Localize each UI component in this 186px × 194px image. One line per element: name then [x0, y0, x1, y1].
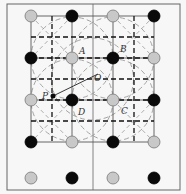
- label-A: A: [78, 46, 86, 56]
- dashed-grid-lines: [31, 16, 154, 142]
- black-atom: [148, 172, 160, 184]
- label-B: B: [119, 44, 127, 54]
- black-atom: [66, 94, 78, 106]
- black-atom: [25, 52, 37, 64]
- gray-atom: [107, 94, 119, 106]
- black-atom: [107, 136, 119, 148]
- point-P-dot: [51, 94, 56, 99]
- gray-atom: [107, 10, 119, 22]
- black-atom: [107, 52, 119, 64]
- black-atom: [66, 172, 78, 184]
- gray-atom: [25, 172, 37, 184]
- gray-atom: [148, 52, 160, 64]
- gray-atom: [66, 136, 78, 148]
- black-atom: [66, 10, 78, 22]
- gray-atom: [25, 10, 37, 22]
- black-atom: [148, 94, 160, 106]
- label-D: D: [77, 107, 85, 117]
- gray-atom: [66, 52, 78, 64]
- black-atom: [25, 136, 37, 148]
- black-atom: [148, 10, 160, 22]
- gray-atom: [148, 136, 160, 148]
- crystal-lattice-diagram: ABOPDC: [0, 0, 186, 194]
- label-O: O: [94, 73, 102, 83]
- label-P: P: [41, 91, 49, 101]
- gray-atom: [107, 172, 119, 184]
- gray-atom: [25, 94, 37, 106]
- label-C: C: [121, 106, 128, 116]
- line-P-O: [53, 74, 98, 96]
